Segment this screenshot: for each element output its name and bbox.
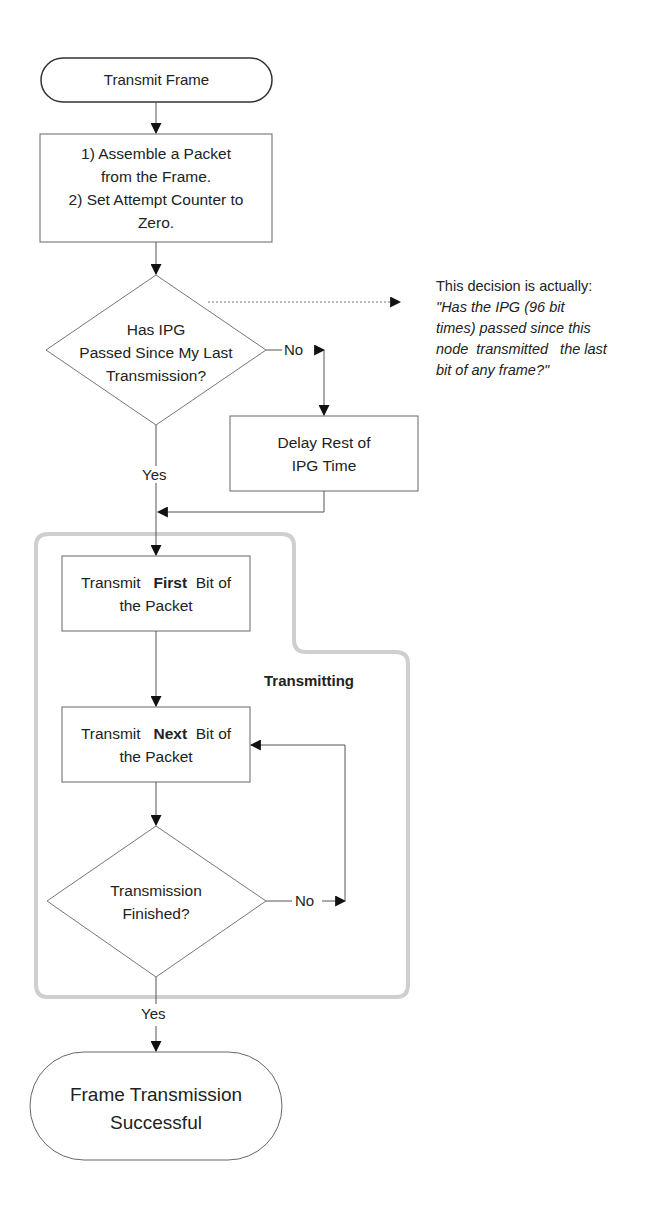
transmitting-group-label: Transmitting — [264, 672, 354, 689]
finished-line-1: Transmission — [66, 879, 246, 902]
annotation-line-1: "Has the IPG (96 bit — [436, 297, 665, 318]
assemble-line-3: 2) Set Attempt Counter to — [40, 188, 272, 211]
arrow-loop-to-next — [251, 745, 345, 901]
finished-decision-text: Transmission Finished? — [66, 879, 246, 925]
finished-yes-label: Yes — [141, 1005, 165, 1022]
next-bit-line-1: Transmit Next Bit of — [62, 722, 250, 745]
ipg-annotation: This decision is actually: "Has the IPG … — [436, 276, 665, 381]
finished-line-2: Finished? — [66, 902, 246, 925]
assemble-line-4: Zero. — [40, 211, 272, 234]
end-terminal-text: Frame Transmission Successful — [30, 1081, 282, 1137]
ipg-decision-text: Has IPG Passed Since My Last Transmissio… — [56, 318, 256, 387]
first-bit-box-text: Transmit First Bit of the Packet — [62, 571, 250, 617]
delay-box-text: Delay Rest of IPG Time — [230, 431, 418, 477]
end-line-2: Successful — [30, 1109, 282, 1137]
next-bit-box-text: Transmit Next Bit of the Packet — [62, 722, 250, 768]
next-bit-emphasis: Next — [154, 725, 188, 742]
ipg-no-label: No — [284, 341, 303, 358]
assemble-box-text: 1) Assemble a Packet from the Frame. 2) … — [40, 142, 272, 234]
end-line-1: Frame Transmission — [30, 1081, 282, 1109]
ipg-decision-line-2: Passed Since My Last — [56, 341, 256, 364]
annotation-line-3: node transmitted the last — [436, 339, 665, 360]
first-bit-prefix: Transmit — [81, 574, 141, 591]
finished-no-label: No — [295, 892, 314, 909]
first-bit-emphasis: First — [154, 574, 188, 591]
first-bit-suffix: Bit of — [196, 574, 231, 591]
arrow-delay-return — [158, 491, 324, 512]
delay-line-2: IPG Time — [230, 454, 418, 477]
next-bit-prefix: Transmit — [81, 725, 141, 742]
assemble-line-1: 1) Assemble a Packet — [40, 142, 272, 165]
ipg-decision-line-1: Has IPG — [56, 318, 256, 341]
first-bit-line-2: the Packet — [62, 594, 250, 617]
next-bit-suffix: Bit of — [196, 725, 231, 742]
next-bit-line-2: the Packet — [62, 745, 250, 768]
annotation-line-2: times) passed since this — [436, 318, 665, 339]
start-terminal-label: Transmit Frame — [41, 69, 272, 90]
ipg-yes-label: Yes — [140, 466, 168, 483]
annotation-intro: This decision is actually: — [436, 276, 665, 297]
delay-line-1: Delay Rest of — [230, 431, 418, 454]
ipg-decision-line-3: Transmission? — [56, 364, 256, 387]
first-bit-line-1: Transmit First Bit of — [62, 571, 250, 594]
annotation-line-4: bit of any frame?" — [436, 360, 665, 381]
assemble-line-2: from the Frame. — [40, 165, 272, 188]
